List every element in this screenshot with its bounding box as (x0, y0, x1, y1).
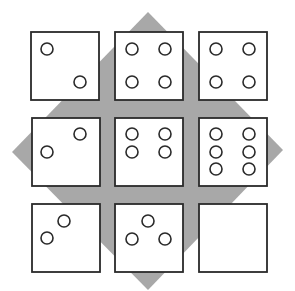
tile-frame (115, 118, 183, 186)
pip-circle-icon (126, 233, 138, 245)
die-face-tile (199, 118, 267, 186)
pip-circle-icon (159, 233, 171, 245)
pip-circle-icon (210, 163, 222, 175)
pip-circle-icon (58, 215, 70, 227)
die-face-tile (32, 118, 100, 186)
pip-circle-icon (243, 43, 255, 55)
tile-frame (115, 32, 183, 100)
empty-answer-tile (199, 204, 267, 272)
pip-circle-icon (41, 146, 53, 158)
tile-frame (199, 118, 267, 186)
pip-circle-icon (159, 146, 171, 158)
pip-circle-icon (126, 76, 138, 88)
pip-circle-icon (159, 128, 171, 140)
pip-circle-icon (243, 76, 255, 88)
die-face-tile (199, 32, 267, 100)
die-face-tile (31, 32, 99, 100)
pip-circle-icon (74, 128, 86, 140)
tile-frame (115, 204, 183, 272)
pip-circle-icon (142, 215, 154, 227)
pip-circle-icon (126, 128, 138, 140)
die-face-tile (115, 118, 183, 186)
tile-frame (199, 32, 267, 100)
pip-circle-icon (210, 128, 222, 140)
tile-frame (199, 204, 267, 272)
dice-puzzle-figure (0, 0, 295, 291)
pip-circle-icon (243, 146, 255, 158)
die-face-tile (115, 32, 183, 100)
pip-circle-icon (210, 76, 222, 88)
pip-circle-icon (243, 163, 255, 175)
pip-circle-icon (210, 146, 222, 158)
pip-circle-icon (74, 76, 86, 88)
pip-circle-icon (159, 76, 171, 88)
pip-circle-icon (210, 43, 222, 55)
die-face-tile (32, 204, 100, 272)
die-face-tile (115, 204, 183, 272)
pip-circle-icon (126, 146, 138, 158)
pip-circle-icon (243, 128, 255, 140)
tile-frame (31, 32, 99, 100)
dice-grid (31, 32, 267, 272)
pip-circle-icon (41, 232, 53, 244)
pip-circle-icon (159, 43, 171, 55)
pip-circle-icon (41, 43, 53, 55)
pip-circle-icon (126, 43, 138, 55)
